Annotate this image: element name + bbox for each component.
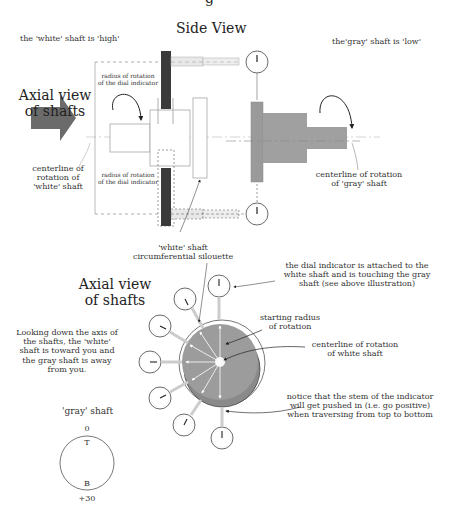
notice-line: notice that the stem of the indicator [285, 392, 435, 401]
gray-centerline-line1: centerline of rotation [314, 170, 404, 179]
looking-down-line: Looking down the axis of [12, 328, 122, 337]
bottom-dial-indicator [246, 203, 268, 225]
dial-attached-line: shaft (see above illustration) [282, 279, 432, 288]
looking-down-note: Looking down the axis of the shafts, the… [12, 328, 122, 374]
top-dial-indicator [246, 51, 268, 73]
axial-view-title-line1: Axial view [70, 276, 160, 292]
axial-view-title: Axial view of shafts [70, 276, 160, 308]
radius-top-label: radius of rotation of the dial indicator [98, 73, 158, 87]
gray-top-marker: T [82, 438, 92, 447]
white-centerline-line3: 'white' shaft [28, 182, 88, 191]
gray-top-value: 0 [82, 424, 92, 433]
starting-radius-line1: starting radius [255, 313, 325, 322]
side-axial-label: Axial view of shafts [18, 87, 92, 119]
white-center-axial-label: centerline of rotation of white shaft [305, 340, 405, 358]
starting-radius-line2: of rotation [255, 322, 325, 331]
gray-bottom-marker: B [82, 479, 92, 488]
radius-bottom-label: radius of rotation of the dial indicator [98, 172, 158, 186]
notice-note: notice that the stem of the indicator wi… [285, 392, 435, 420]
axial-dial-5 [149, 387, 171, 409]
gray-centerline-line2: of 'gray' shaft [314, 179, 404, 188]
side-view-title: Side View [176, 20, 246, 36]
axial-dial-4 [139, 351, 161, 373]
white-silhouette-line2: circumferential silouette [133, 252, 233, 261]
axial-dial-3 [149, 315, 171, 337]
looking-down-line: the gray shaft is away [12, 356, 122, 365]
starting-radius-label: starting radius of rotation [255, 313, 325, 331]
gray-rotation-arrow [320, 96, 352, 128]
axial-dial-top [208, 275, 230, 297]
radius-top-line2: of the dial indicator [98, 80, 158, 87]
side-axial-label-line1: Axial view [18, 87, 92, 103]
side-axial-label-line2: of shafts [18, 103, 92, 119]
looking-down-line: shaft is toward you and [12, 346, 122, 355]
white-silhouette-line1: 'white' shaft [133, 243, 233, 252]
axial-view-title-line2: of shafts [70, 292, 160, 308]
white-rotation-arrow [112, 94, 141, 120]
white-shaft-side [110, 98, 207, 178]
radius-bottom-line2: of the dial indicator [98, 179, 158, 186]
gray-shaft-label: 'gray' shaft [62, 406, 112, 416]
notice-line: will get pushed in (i.e. go positive) [285, 401, 435, 410]
title-fragment: g [205, 0, 214, 6]
bottom-indicator-arm [161, 168, 171, 226]
gray-centerline-label: centerline of rotation of 'gray' shaft [314, 170, 404, 188]
notice-line: when traversing from top to bottom [285, 410, 435, 419]
axial-dial-6 [173, 414, 195, 436]
white-centerline-line2: rotation of [28, 173, 88, 182]
white-center-axial-line1: centerline of rotation [305, 340, 405, 349]
gray-low-note: the'gray' shaft is 'low' [332, 37, 421, 46]
looking-down-line: the shafts, the 'white' [12, 337, 122, 346]
gray-bottom-value: +30 [72, 494, 102, 503]
looking-down-line: from you. [12, 365, 122, 374]
white-centerline-line1: centerline of [28, 164, 88, 173]
axial-dial-bottom [211, 427, 233, 449]
axial-dial-2 [174, 288, 196, 310]
dial-attached-note: the dial indicator is attached to the wh… [282, 261, 432, 289]
top-indicator-arm [161, 51, 171, 109]
white-silhouette-label: 'white' shaft circumferential silouette [133, 243, 233, 261]
white-centerline-label: centerline of rotation of 'white' shaft [28, 164, 88, 192]
white-center-axial-line2: of white shaft [305, 349, 405, 358]
dial-attached-line: the dial indicator is attached to the [282, 261, 432, 270]
dial-attached-line: white shaft and is touching the gray [282, 270, 432, 279]
white-high-note: the 'white' shaft is 'high' [20, 34, 119, 43]
